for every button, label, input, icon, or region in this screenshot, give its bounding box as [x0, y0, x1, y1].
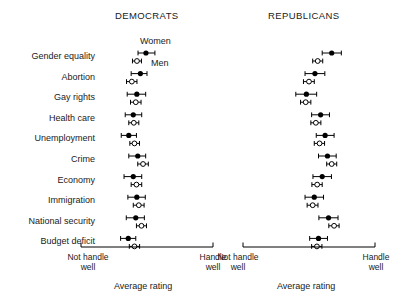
axis-end-line1: Not handle — [217, 252, 258, 262]
axis-end-line1: Handle — [363, 252, 390, 262]
datapoint-republicans-men-health-care — [311, 120, 321, 125]
axis-democrats — [81, 243, 213, 248]
datapoint-republicans-men-crime — [327, 162, 337, 167]
datapoint-democrats-men-national-security — [136, 223, 146, 228]
datapoint-republicans-women-unemployment — [316, 133, 334, 138]
datapoint-democrats-women-unemployment — [121, 133, 136, 138]
datapoint-republicans-women-abortion — [305, 71, 325, 76]
datapoint-republicans-women-economy — [313, 174, 331, 179]
datapoint-republicans-men-national-security — [329, 223, 339, 228]
datapoint-republicans-women-crime — [319, 153, 337, 158]
datapoint-democrats-women-crime — [129, 153, 146, 158]
datapoint-democrats-men-gender-equality — [132, 59, 141, 64]
datapoint-democrats-women-health-care — [125, 112, 142, 117]
forest-plot-figure: DEMOCRATS REPUBLICANS Gender equalityAbo… — [0, 0, 403, 308]
datapoint-republicans-men-abortion — [303, 79, 314, 84]
datapoint-republicans-women-national-security — [319, 215, 338, 220]
axis-right-label-republicans: Handlewell — [348, 252, 403, 272]
axis-title-republicans: Average rating — [277, 281, 335, 291]
datapoint-democrats-men-unemployment — [130, 141, 140, 146]
datapoint-democrats-women-budget-deficit — [121, 236, 136, 241]
datapoint-democrats-women-gender-equality — [138, 50, 155, 55]
datapoint-democrats-men-economy — [131, 182, 142, 187]
axis-left-label-republicans: Not handlewell — [208, 252, 268, 272]
datapoint-republicans-men-immigration — [307, 203, 318, 208]
axis-republicans — [243, 243, 375, 248]
axis-left-label-democrats: Not handlewell — [58, 252, 118, 272]
datapoint-democrats-men-gay-rights — [131, 100, 142, 105]
datapoint-democrats-men-budget-deficit — [129, 244, 139, 249]
datapoint-republicans-men-economy — [312, 182, 322, 187]
datapoint-democrats-men-health-care — [129, 120, 139, 125]
datapoint-republicans-men-budget-deficit — [312, 244, 322, 249]
datapoint-democrats-men-abortion — [127, 79, 137, 84]
datapoint-democrats-women-gay-rights — [127, 92, 145, 97]
datapoint-democrats-women-abortion — [131, 71, 147, 76]
axis-end-line2: well — [369, 262, 384, 272]
datapoint-republicans-women-gender-equality — [322, 50, 341, 55]
datapoint-republicans-men-gay-rights — [301, 100, 311, 105]
datapoint-republicans-men-unemployment — [314, 141, 324, 146]
axis-end-line1: Not handle — [67, 252, 108, 262]
datapoint-democrats-men-immigration — [133, 203, 144, 208]
axis-title-democrats: Average rating — [114, 281, 172, 291]
datapoint-republicans-women-immigration — [305, 195, 323, 200]
datapoint-democrats-men-crime — [138, 162, 149, 167]
axis-end-line2: well — [81, 262, 96, 272]
datapoint-democrats-women-national-security — [126, 215, 144, 220]
datapoint-democrats-women-immigration — [128, 195, 145, 200]
datapoint-democrats-women-economy — [124, 174, 142, 179]
datapoint-republicans-women-health-care — [312, 112, 330, 117]
axis-end-line2: well — [231, 262, 246, 272]
datapoint-republicans-women-budget-deficit — [310, 236, 328, 241]
datapoint-republicans-women-gay-rights — [296, 92, 317, 97]
datapoint-republicans-men-gender-equality — [313, 59, 323, 64]
